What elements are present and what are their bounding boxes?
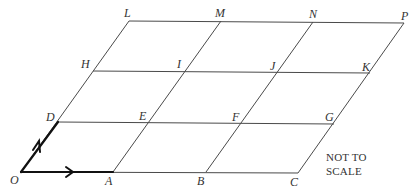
line-bn <box>206 22 313 172</box>
line-lp <box>129 21 404 23</box>
not-to-scale-line1: NOT TO <box>326 151 367 163</box>
label-d: D <box>45 110 55 124</box>
label-b: B <box>197 174 205 188</box>
label-e: E <box>138 109 147 123</box>
label-a: A <box>104 174 113 188</box>
line-am <box>113 21 221 172</box>
label-h: H <box>80 57 91 71</box>
parallelogram-grid-diagram: O A B C D E F G H I J K L M N P NOT TO S… <box>0 0 415 194</box>
label-k: K <box>361 60 371 74</box>
label-p: P <box>400 9 409 23</box>
label-g: G <box>325 110 334 124</box>
label-m: M <box>214 6 226 20</box>
label-i: I <box>176 57 182 71</box>
line-dg <box>58 122 334 124</box>
label-o: O <box>10 173 19 187</box>
label-l: L <box>123 6 131 20</box>
label-j: J <box>270 59 276 73</box>
label-n: N <box>308 7 318 21</box>
line-hk <box>93 71 370 73</box>
not-to-scale-line2: SCALE <box>326 165 362 177</box>
label-f: F <box>231 110 240 124</box>
label-c: C <box>290 175 299 189</box>
